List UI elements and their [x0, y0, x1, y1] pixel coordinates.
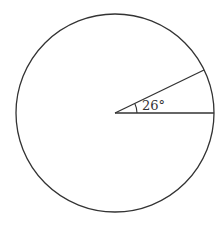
angle-label: 26°	[142, 98, 165, 113]
angle-arc	[135, 103, 137, 113]
circle-diagram: 26°	[0, 0, 222, 230]
